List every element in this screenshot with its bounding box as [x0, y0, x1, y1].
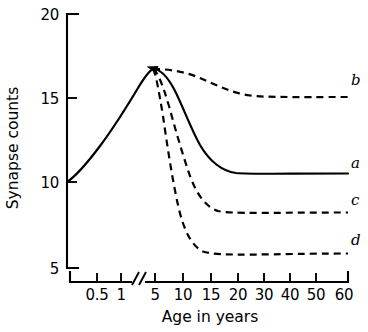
- curve-series-b: [153, 69, 348, 97]
- x-tick-label-1: 1: [116, 286, 125, 304]
- curve-series-c: [153, 69, 348, 213]
- x-tick-label-0-5: 0.5: [86, 286, 109, 304]
- x-tick-label-60: 60: [335, 286, 354, 304]
- x-tick-label-10: 10: [174, 286, 193, 304]
- x-axis: [70, 272, 348, 285]
- y-tick-label-15: 15: [41, 90, 60, 108]
- synapse-counts-figure: 20 15 10 5 0.5 1 5 10 15 20 30 40 50 60 …: [0, 0, 368, 332]
- x-axis-title: Age in years: [162, 308, 259, 326]
- y-tick-label-10: 10: [41, 174, 60, 192]
- series-label-c: c: [351, 191, 360, 209]
- x-tick-labels: 0.5 1 5 10 15 20 30 40 50 60: [86, 286, 354, 304]
- y-tick-label-20: 20: [41, 6, 60, 24]
- y-axis-title: Synapse counts: [4, 87, 22, 210]
- x-tick-label-30: 30: [255, 286, 274, 304]
- y-tick-labels: 20 15 10 5: [41, 6, 60, 278]
- y-tick-label-5: 5: [50, 260, 59, 278]
- series-label-a: a: [351, 154, 360, 172]
- x-tick-label-20: 20: [229, 286, 248, 304]
- x-axis-spine-right: [146, 272, 348, 282]
- curve-series-a: [67, 69, 348, 182]
- axis-break-icon: [132, 272, 146, 285]
- series-label-d: d: [351, 231, 361, 249]
- chart-canvas: 20 15 10 5 0.5 1 5 10 15 20 30 40 50 60 …: [0, 0, 368, 332]
- x-tick-label-40: 40: [281, 286, 300, 304]
- series-label-b: b: [351, 71, 361, 89]
- y-axis-spine: [67, 14, 78, 268]
- x-tick-label-50: 50: [307, 286, 326, 304]
- x-tick-label-5: 5: [150, 286, 159, 304]
- series-labels: b a c d: [351, 71, 361, 249]
- y-axis: [67, 14, 78, 268]
- x-tick-label-15: 15: [202, 286, 221, 304]
